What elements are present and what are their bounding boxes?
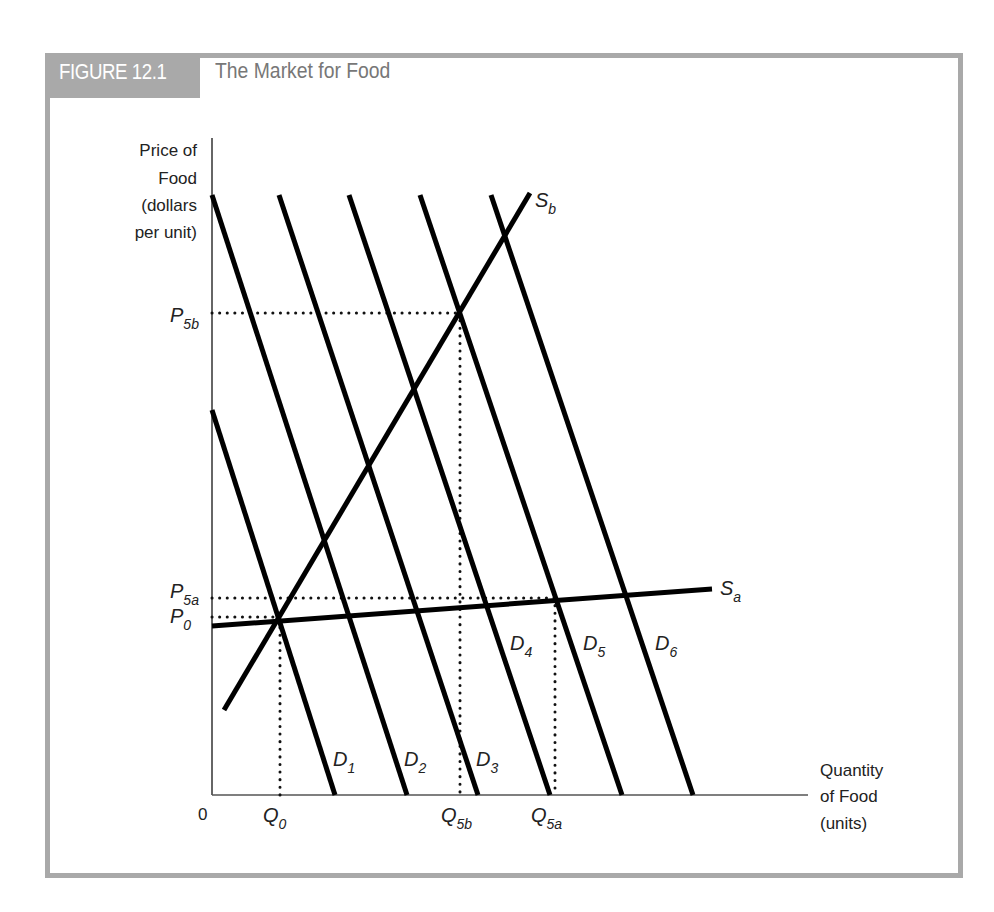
label-sb: Sb [535,189,556,217]
label-sa: Sa [720,577,741,605]
label-d4: D4 [510,632,532,660]
tick-labels: P5bP5aP0Q0Q5bQ5a [170,304,562,832]
tick-q5a: Q5a [531,804,562,832]
svg-text:of Food: of Food [820,787,878,806]
label-d5: D5 [583,632,605,660]
tick-p5a: P5a [170,580,199,608]
tick-q0: Q0 [263,804,287,832]
curves [212,193,712,795]
svg-text:(units): (units) [820,814,867,833]
market-chart: Price of Food (dollars per unit) Quantit… [0,0,994,912]
curve-sb [224,193,530,710]
svg-text:(dollars: (dollars [141,196,197,215]
tick-p0: P0 [170,605,191,633]
svg-text:per unit): per unit) [135,223,197,242]
curve-labels: D1D2D3D4D5D6SaSb [333,189,741,776]
x-axis-label: Quantity of Food (units) [820,761,884,833]
label-d1: D1 [333,748,355,776]
y-axis-label: Price of Food (dollars per unit) [135,141,198,242]
svg-text:Quantity: Quantity [820,761,884,780]
tick-q5b: Q5b [441,804,472,832]
tick-p5b: P5b [170,304,199,332]
label-d2: D2 [404,748,426,776]
svg-text:Price of: Price of [139,141,197,160]
label-d6: D6 [655,632,677,660]
svg-text:Food: Food [158,169,197,188]
curve-d1 [212,410,335,795]
origin-label: 0 [198,805,207,824]
label-d3: D3 [476,748,498,776]
